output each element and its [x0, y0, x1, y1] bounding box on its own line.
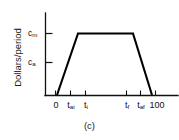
cost-profile-curve — [57, 34, 152, 96]
figure-panel: Dollars/period cm ca 0 tai ti tf taf 100… — [0, 0, 179, 140]
x-tick-label-100: 100 — [145, 100, 169, 110]
y-tick-label-ca: ca — [28, 57, 36, 67]
x-tick-label-0-base: 0 — [53, 100, 58, 110]
figure-caption: (c) — [0, 120, 179, 131]
x-tick-label-ti: ti — [75, 100, 97, 110]
x-tick-label-ti-sub: i — [87, 103, 88, 110]
x-tick-label-tai-sub: ai — [70, 103, 75, 110]
x-tick-label-100-base: 100 — [149, 100, 164, 110]
y-tick-label-ca-sub: a — [32, 60, 35, 67]
y-axis-title: Dollars/period — [12, 10, 23, 106]
chart-plot-area — [0, 0, 179, 140]
y-tick-label-cm: cm — [28, 28, 37, 38]
x-tick-label-tf-sub: f — [127, 103, 129, 110]
y-tick-label-cm-sub: m — [32, 31, 37, 38]
